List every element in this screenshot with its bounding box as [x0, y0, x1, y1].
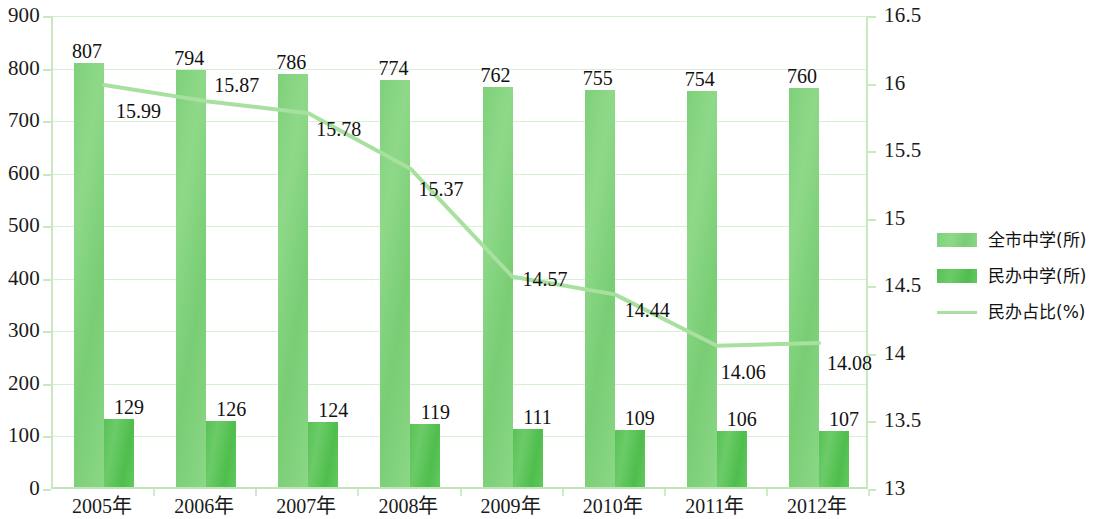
- line-value-label: 14.06: [721, 362, 766, 382]
- y-axis-left-tick-label: 900: [8, 5, 40, 26]
- bar-label-series-a: 754: [670, 69, 730, 89]
- y-axis-left-tick-mark: [43, 436, 51, 438]
- x-axis-tick-label: 2008年: [357, 495, 459, 517]
- y-axis-right-tick-label: 14.5: [884, 275, 922, 296]
- bar-label-series-b: 106: [719, 409, 765, 429]
- legend: 全市中学(所) 民办中学(所) 民办占比(%): [937, 222, 1097, 330]
- bar-label-series-a: 794: [159, 48, 219, 68]
- bar-label-series-a: 755: [568, 68, 628, 88]
- line-value-label: 15.78: [316, 119, 361, 139]
- y-axis-left-tick-mark: [43, 489, 51, 491]
- line-value-label: 15.99: [116, 101, 161, 121]
- legend-label-2: 民办占比(%): [988, 303, 1085, 322]
- bar-label-series-b: 129: [106, 397, 152, 417]
- legend-item-0[interactable]: 全市中学(所): [937, 222, 1097, 258]
- bar-label-series-a: 786: [261, 52, 321, 72]
- legend-item-1[interactable]: 民办中学(所): [937, 258, 1097, 294]
- bar-label-series-b: 126: [208, 399, 254, 419]
- y-axis-left-tick-label: 600: [8, 163, 40, 184]
- y-axis-left-tick-mark: [43, 174, 51, 176]
- x-axis-tick-label: 2007年: [255, 495, 357, 517]
- y-axis-right-tick-mark: [868, 421, 876, 423]
- legend-label-0: 全市中学(所): [988, 231, 1086, 250]
- y-axis-left-tick-mark: [43, 384, 51, 386]
- y-axis-left-tick-label: 800: [8, 58, 40, 79]
- y-axis-right-tick-mark: [868, 151, 876, 153]
- line-path: [104, 85, 819, 346]
- bar-label-series-b: 119: [412, 402, 458, 422]
- line-value-label: 15.37: [418, 179, 463, 199]
- x-axis-tick-label: 2009年: [460, 495, 562, 517]
- bar-label-series-b: 107: [821, 409, 867, 429]
- bar-label-series-a: 807: [57, 41, 117, 61]
- bar-label-series-a: 774: [363, 58, 423, 78]
- line-value-label: 14.08: [827, 353, 872, 373]
- legend-label-1: 民办中学(所): [988, 267, 1086, 286]
- y-axis-left-tick-label: 0: [29, 478, 40, 499]
- y-axis-left-tick-label: 300: [8, 320, 40, 341]
- y-axis-right-tick-label: 14: [884, 343, 905, 364]
- bar-label-series-b: 124: [310, 400, 356, 420]
- y-axis-right-tick-label: 15.5: [884, 140, 922, 161]
- y-axis-left-tick-label: 400: [8, 268, 40, 289]
- legend-swatch-line-green-icon: [937, 311, 977, 314]
- y-axis-right-tick-mark: [868, 286, 876, 288]
- y-axis-left-tick-mark: [43, 16, 51, 18]
- y-axis-left-tick-mark: [43, 69, 51, 71]
- y-axis-right-tick-label: 16.5: [884, 5, 922, 26]
- y-axis-left-tick-label: 500: [8, 215, 40, 236]
- y-axis-right-tick-mark: [868, 219, 876, 221]
- y-axis-left-tick-mark: [43, 331, 51, 333]
- y-axis-right-tick-label: 16: [884, 73, 905, 94]
- y-axis-left-tick-mark: [43, 279, 51, 281]
- bar-label-series-b: 111: [515, 407, 561, 427]
- y-axis-left-tick-label: 100: [8, 425, 40, 446]
- line-value-label: 14.44: [625, 300, 670, 320]
- y-axis-right-tick-label: 13.5: [884, 410, 922, 431]
- y-axis-left-tick-label: 200: [8, 373, 40, 394]
- x-axis-tick-label: 2011年: [664, 495, 766, 517]
- line-value-label: 14.57: [523, 269, 568, 289]
- bar-label-series-b: 109: [617, 408, 663, 428]
- x-axis-tick-label: 2006年: [153, 495, 255, 517]
- y-axis-left-tick-label: 700: [8, 110, 40, 131]
- x-axis-tick-mark: [868, 489, 870, 496]
- legend-swatch-bar-light-green-icon: [937, 233, 977, 247]
- y-axis-right-tick-mark: [868, 84, 876, 86]
- x-axis-tick-label: 2005年: [51, 495, 153, 517]
- x-axis-tick-label: 2010年: [562, 495, 664, 517]
- y-axis-right-tick-label: 15: [884, 208, 905, 229]
- chart-container: 0100200300400500600700800900 1313.51414.…: [0, 0, 1097, 519]
- y-axis-left-tick-mark: [43, 121, 51, 123]
- legend-swatch-bar-dark-green-icon: [937, 269, 977, 283]
- y-axis-right-tick-mark: [868, 16, 876, 18]
- legend-item-2[interactable]: 民办占比(%): [937, 294, 1097, 330]
- x-axis-tick-label: 2012年: [766, 495, 868, 517]
- line-value-label: 15.87: [214, 75, 259, 95]
- bar-label-series-a: 762: [466, 65, 526, 85]
- y-axis-right-tick-label: 13: [884, 478, 905, 499]
- y-axis-left-tick-mark: [43, 226, 51, 228]
- bar-label-series-a: 760: [772, 66, 832, 86]
